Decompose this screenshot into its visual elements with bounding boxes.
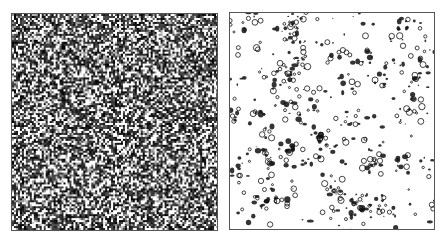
figure xyxy=(0,0,447,243)
sparse-contours-panel xyxy=(229,12,435,230)
dense-noise-panel xyxy=(11,13,218,231)
dense-noise-canvas xyxy=(12,14,217,230)
sparse-contours-plot xyxy=(230,13,434,229)
